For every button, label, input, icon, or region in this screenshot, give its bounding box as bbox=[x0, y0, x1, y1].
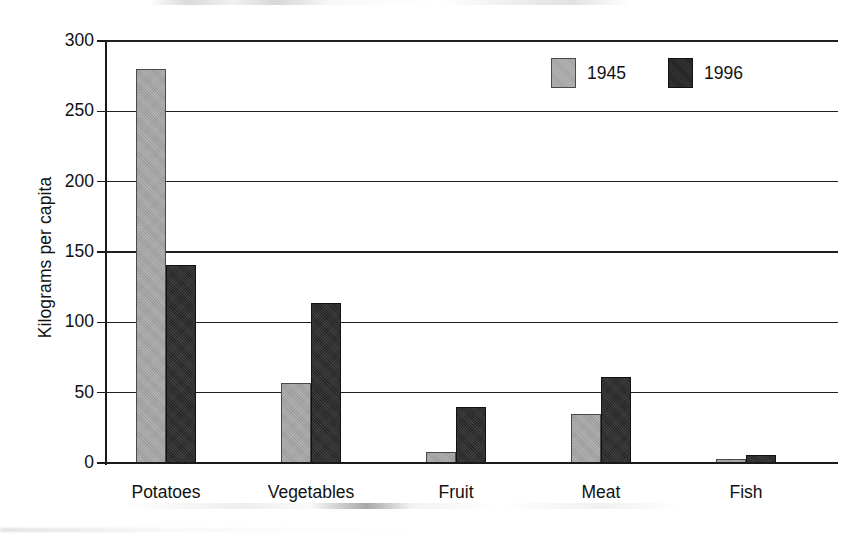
plot-area bbox=[105, 41, 838, 463]
y-axis-tick-label: 200 bbox=[65, 171, 94, 192]
y-axis-tick-label: 300 bbox=[65, 30, 94, 51]
y-axis-tick-label: 0 bbox=[84, 452, 94, 473]
bar-group bbox=[281, 41, 341, 463]
scan-artifact-bottom-edge bbox=[120, 503, 680, 509]
x-axis-line bbox=[105, 462, 838, 464]
bar-meat-1996 bbox=[601, 377, 631, 463]
scan-artifact-top-edge bbox=[150, 0, 750, 5]
x-axis-label-fish: Fish bbox=[646, 482, 846, 503]
y-axis-tick-label: 150 bbox=[65, 241, 94, 262]
y-axis-tick-mark bbox=[97, 392, 105, 394]
y-axis-tick-mark bbox=[97, 40, 105, 42]
y-axis-tick-label: 50 bbox=[75, 382, 94, 403]
y-axis-tick-labels: 050100150200250300 bbox=[32, 41, 94, 463]
bar-group bbox=[426, 41, 486, 463]
y-axis-tick-label: 100 bbox=[65, 311, 94, 332]
bar-group bbox=[571, 41, 631, 463]
bar-group bbox=[716, 41, 776, 463]
bar-group bbox=[136, 41, 196, 463]
legend-label-1945: 1945 bbox=[587, 63, 626, 84]
legend-swatch-1945 bbox=[551, 58, 576, 88]
bar-fruit-1996 bbox=[456, 407, 486, 463]
y-axis-tick-mark bbox=[97, 322, 105, 324]
bar-potatoes-1945 bbox=[136, 69, 166, 463]
bar-potatoes-1996 bbox=[166, 265, 196, 463]
y-axis-tick-mark bbox=[97, 181, 105, 183]
y-axis-tick-mark bbox=[97, 111, 105, 113]
bar-vegetables-1945 bbox=[281, 383, 311, 463]
y-axis-tick-mark bbox=[97, 251, 105, 253]
bar-chart-figure: Kilograms per capita 050100150200250300 … bbox=[0, 0, 863, 538]
scan-artifact-footer-edge bbox=[0, 528, 430, 532]
chart-legend: 19451996 bbox=[551, 58, 743, 88]
legend-label-1996: 1996 bbox=[704, 63, 743, 84]
bar-meat-1945 bbox=[571, 414, 601, 463]
y-axis-tick-mark bbox=[97, 462, 105, 464]
y-axis-tick-label: 250 bbox=[65, 100, 94, 121]
bar-vegetables-1996 bbox=[311, 303, 341, 463]
legend-swatch-1996 bbox=[668, 58, 693, 88]
legend-item-1996: 1996 bbox=[668, 58, 743, 88]
legend-item-1945: 1945 bbox=[551, 58, 626, 88]
